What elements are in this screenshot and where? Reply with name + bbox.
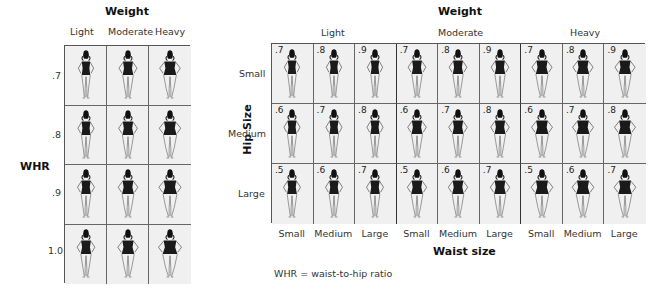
figure-cell: .9 [480, 44, 522, 104]
figure-cell: .9 [604, 44, 646, 104]
figure-cell: .7 [355, 164, 397, 224]
figure-cell: .8 [314, 44, 356, 104]
figure-cell: .8 [480, 104, 522, 164]
figure-cell: .7 [438, 104, 480, 164]
left-col-light: Light [70, 26, 94, 37]
woman-figure-icon [483, 107, 517, 165]
figure-cell: .9 [355, 44, 397, 104]
woman-figure-icon [483, 47, 517, 105]
woman-figure-icon [566, 107, 600, 165]
figure-cell [107, 46, 149, 106]
woman-figure-icon [153, 49, 187, 105]
figure-cell: .7 [521, 44, 563, 104]
figure-cell [65, 225, 107, 285]
woman-figure-icon [525, 107, 559, 165]
woman-figure-icon [358, 167, 392, 225]
woman-figure-icon [400, 47, 434, 105]
right-weight-title: Weight [438, 5, 482, 18]
woman-figure-icon [69, 168, 103, 224]
woman-figure-icon [111, 168, 145, 224]
woman-figure-icon [441, 47, 475, 105]
woman-figure-icon [358, 107, 392, 165]
figure-cell: .8 [604, 104, 646, 164]
right-group-light: Light [321, 27, 345, 38]
woman-figure-icon [441, 167, 475, 225]
hip-row-label: Small [239, 68, 265, 79]
figure-cell: .6 [314, 164, 356, 224]
figure-cell: .6 [438, 164, 480, 224]
woman-figure-icon [566, 167, 600, 225]
woman-figure-icon [111, 49, 145, 105]
woman-figure-icon [275, 47, 309, 105]
figure-cell: .7 [314, 104, 356, 164]
figure-cell: .8 [355, 104, 397, 164]
hip-row-label: Large [238, 188, 265, 199]
figure-cell: .6 [521, 104, 563, 164]
hip-row-label: Medium [228, 128, 266, 139]
woman-figure-icon [69, 49, 103, 105]
woman-figure-icon [608, 167, 642, 225]
waist-col-label: Medium [437, 228, 479, 239]
waist-col-label: Medium [313, 228, 355, 239]
woman-figure-icon [111, 228, 145, 284]
right-group-moderate: Moderate [438, 27, 483, 38]
figure-cell: .5 [521, 164, 563, 224]
woman-figure-icon [317, 167, 351, 225]
woman-figure-icon [69, 228, 103, 284]
woman-figure-icon [400, 167, 434, 225]
figure-cell: .7 [397, 44, 439, 104]
woman-figure-icon [608, 107, 642, 165]
waist-col-label: Small [271, 228, 313, 239]
figure-cell: .5 [272, 164, 314, 224]
woman-figure-icon [317, 107, 351, 165]
woman-figure-icon [153, 109, 187, 165]
woman-figure-icon [400, 107, 434, 165]
woman-figure-icon [275, 107, 309, 165]
woman-figure-icon [608, 47, 642, 105]
woman-figure-icon [358, 47, 392, 105]
figure-cell: .7 [604, 164, 646, 224]
footnote: WHR = waist-to-hip ratio [274, 268, 392, 279]
woman-figure-icon [566, 47, 600, 105]
left-figure-grid [64, 45, 190, 283]
figure-cell [65, 46, 107, 106]
woman-figure-icon [525, 167, 559, 225]
waist-col-label: Large [354, 228, 396, 239]
woman-figure-icon [153, 168, 187, 224]
waist-col-label: Medium [562, 228, 604, 239]
waist-col-label: Large [479, 228, 521, 239]
waist-col-label: Small [520, 228, 562, 239]
waist-col-label: Large [603, 228, 645, 239]
figure-cell: .5 [397, 164, 439, 224]
whr-row-label: 1.0 [48, 245, 63, 256]
whr-row-label: .7 [52, 70, 61, 81]
waist-col-label: Small [396, 228, 438, 239]
figure-cell: .6 [563, 164, 605, 224]
woman-figure-icon [69, 109, 103, 165]
right-figure-grid: .7 .8 .9 .7 .8 .9 [271, 43, 645, 223]
right-group-heavy: Heavy [570, 27, 600, 38]
whr-row-label: .8 [52, 129, 61, 140]
figure-cell [65, 106, 107, 166]
figure-cell [65, 165, 107, 225]
figure-cell: .7 [480, 164, 522, 224]
left-col-heavy: Heavy [155, 26, 185, 37]
woman-figure-icon [275, 167, 309, 225]
whr-axis-label: WHR [20, 160, 50, 173]
left-weight-title: Weight [105, 5, 149, 18]
woman-figure-icon [317, 47, 351, 105]
woman-figure-icon [441, 107, 475, 165]
figure-cell [149, 165, 191, 225]
figure-cell [149, 46, 191, 106]
figure-cell [107, 106, 149, 166]
figure-cell: .6 [272, 104, 314, 164]
left-col-moderate: Moderate [108, 26, 153, 37]
figure-cell: .8 [563, 44, 605, 104]
figure-cell: .8 [438, 44, 480, 104]
waist-size-axis-label: Waist size [433, 245, 496, 258]
figure-cell [107, 225, 149, 285]
woman-figure-icon [111, 109, 145, 165]
figure-cell [107, 165, 149, 225]
figure-cell: .7 [272, 44, 314, 104]
figure-cell: .6 [397, 104, 439, 164]
